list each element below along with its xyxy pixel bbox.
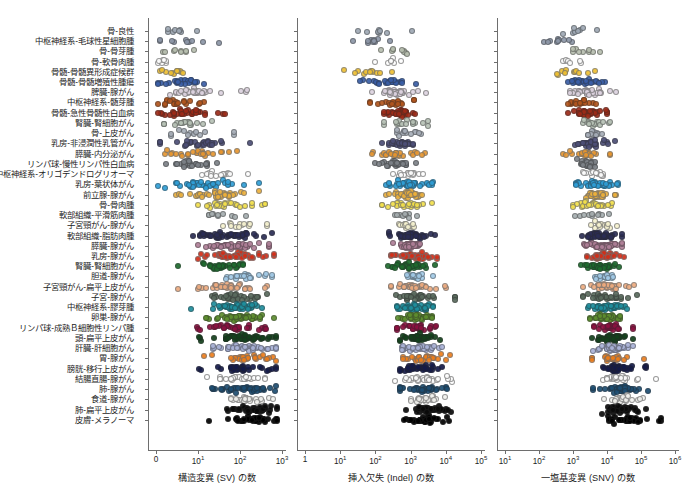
data-point xyxy=(214,202,220,208)
data-point xyxy=(171,110,177,116)
y-axis-label-row-35: 肺-腺がん xyxy=(99,385,134,394)
data-point xyxy=(406,201,412,207)
data-point xyxy=(415,418,421,424)
data-point xyxy=(596,222,602,228)
data-point xyxy=(222,192,228,198)
data-point xyxy=(168,131,174,137)
data-point xyxy=(565,101,571,107)
y-tick-19 xyxy=(294,225,298,226)
data-point xyxy=(381,109,387,115)
y-tick-4 xyxy=(145,72,149,73)
data-point xyxy=(240,366,246,372)
data-point xyxy=(225,335,231,341)
data-point xyxy=(586,47,592,53)
data-point xyxy=(586,121,592,127)
data-point xyxy=(227,171,233,177)
y-axis-label-row-27: 中枢神経系-膠芽腫 xyxy=(67,303,134,312)
data-point xyxy=(617,313,623,319)
data-point xyxy=(185,151,191,157)
data-point xyxy=(157,139,163,145)
data-point xyxy=(167,98,173,104)
y-tick-17 xyxy=(294,205,298,206)
y-tick-1 xyxy=(494,41,498,42)
data-point xyxy=(273,345,279,351)
data-point xyxy=(625,393,631,399)
data-point xyxy=(429,362,435,368)
y-tick-1 xyxy=(145,41,149,42)
data-point xyxy=(408,334,414,340)
data-point xyxy=(567,90,573,96)
y-tick-5 xyxy=(294,82,298,83)
y-tick-37 xyxy=(145,410,149,411)
data-point xyxy=(236,333,242,339)
data-point xyxy=(204,252,210,258)
y-tick-13 xyxy=(294,164,298,165)
y-axis-label-row-17: 骨-骨肉腫 xyxy=(99,200,134,209)
data-point xyxy=(214,160,220,166)
y-tick-26 xyxy=(145,297,149,298)
data-point xyxy=(266,410,272,416)
y-tick-21 xyxy=(145,246,149,247)
data-point xyxy=(228,231,234,237)
data-point xyxy=(613,291,619,297)
data-point xyxy=(545,39,551,45)
data-point xyxy=(592,191,598,197)
y-tick-22 xyxy=(294,256,298,257)
y-tick-26 xyxy=(294,297,298,298)
data-point xyxy=(214,232,220,238)
data-point xyxy=(266,334,272,340)
data-point xyxy=(203,315,209,321)
data-point xyxy=(254,385,260,391)
data-point xyxy=(194,120,200,126)
x-tick-label-2: 103 xyxy=(567,455,579,466)
data-point xyxy=(589,335,595,341)
data-point xyxy=(425,254,431,260)
data-point xyxy=(395,315,401,321)
data-point xyxy=(211,335,217,341)
data-point xyxy=(163,81,169,87)
data-point xyxy=(209,142,215,148)
data-point xyxy=(251,336,257,342)
data-point xyxy=(274,418,280,424)
data-point xyxy=(161,121,167,127)
data-point xyxy=(377,28,383,34)
y-axis-label-row-7: 中枢神経系-髄芽腫 xyxy=(67,98,134,107)
y-tick-38 xyxy=(294,420,298,421)
y-tick-16 xyxy=(294,195,298,196)
data-point xyxy=(418,357,424,363)
data-point xyxy=(619,240,625,246)
y-tick-17 xyxy=(494,205,498,206)
data-point xyxy=(430,273,436,279)
data-point xyxy=(560,31,566,37)
data-point xyxy=(165,26,171,32)
data-point xyxy=(259,305,265,311)
y-axis-line-snv xyxy=(497,18,498,450)
data-point xyxy=(191,47,197,53)
y-tick-30 xyxy=(294,338,298,339)
data-point xyxy=(200,151,206,157)
data-point xyxy=(369,151,375,157)
data-point xyxy=(183,108,189,114)
data-point xyxy=(199,194,205,200)
data-point xyxy=(585,234,591,240)
y-tick-35 xyxy=(294,389,298,390)
data-point xyxy=(254,294,260,300)
data-point xyxy=(447,352,453,358)
data-point xyxy=(386,180,392,186)
data-point xyxy=(397,368,403,374)
y-tick-24 xyxy=(294,276,298,277)
data-point xyxy=(203,185,209,191)
data-point xyxy=(413,81,419,87)
data-point xyxy=(225,179,231,185)
data-point xyxy=(594,253,600,259)
y-tick-29 xyxy=(494,328,498,329)
x-tick-label-4: 105 xyxy=(635,455,647,466)
data-point xyxy=(433,323,439,329)
data-point xyxy=(419,387,425,393)
data-point xyxy=(270,396,276,402)
data-point xyxy=(162,49,168,55)
data-point xyxy=(198,179,204,185)
data-point xyxy=(603,181,609,187)
y-tick-23 xyxy=(145,266,149,267)
data-point xyxy=(195,162,201,168)
